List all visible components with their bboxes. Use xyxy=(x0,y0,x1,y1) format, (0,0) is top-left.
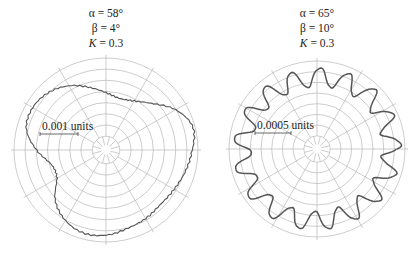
right-polar-plot: 0.0005 units xyxy=(226,58,408,240)
polar-plots: 0.001 units0.0005 units xyxy=(0,0,416,259)
left-polar-plot: 0.001 units xyxy=(11,55,201,245)
scale-label: 0.001 units xyxy=(42,120,94,132)
scale-label: 0.0005 units xyxy=(257,119,314,131)
